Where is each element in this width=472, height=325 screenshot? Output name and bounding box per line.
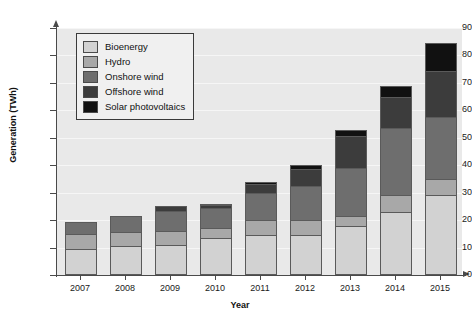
y-tick-mark (50, 28, 56, 29)
x-tick-label: 2013 (327, 283, 373, 293)
bar-stack[interactable] (245, 182, 277, 275)
x-tick-label: 2012 (282, 283, 328, 293)
bar-segment[interactable] (66, 234, 96, 249)
bar-stack[interactable] (110, 216, 142, 275)
bar-stack[interactable] (65, 222, 97, 275)
bar-segment[interactable] (426, 43, 456, 70)
y-axis-arrow-icon (53, 20, 59, 27)
x-tick-label: 2008 (102, 283, 148, 293)
legend-item[interactable]: Offshore wind (83, 84, 185, 99)
y-tick-mark (50, 275, 56, 276)
y-tick-mark (50, 165, 56, 166)
x-tick-label: 2014 (372, 283, 418, 293)
legend-label: Solar photovoltaics (105, 101, 185, 112)
legend-swatch-icon (83, 86, 98, 98)
legend-item[interactable]: Hydro (83, 54, 185, 69)
y-tick-mark (50, 83, 56, 84)
bar-segment[interactable] (66, 222, 96, 234)
bar-segment[interactable] (111, 216, 141, 232)
bar-segment[interactable] (201, 228, 231, 238)
x-tick-label: 2010 (192, 283, 238, 293)
y-axis-title: Generation (TWh) (8, 65, 18, 185)
x-axis-line (56, 275, 466, 276)
bar-segment[interactable] (426, 179, 456, 195)
bar-segment[interactable] (66, 249, 96, 275)
x-tick-mark (395, 275, 396, 280)
x-tick-mark (215, 275, 216, 280)
bar-segment[interactable] (246, 193, 276, 220)
bar-segment[interactable] (201, 208, 231, 229)
bar-segment[interactable] (336, 216, 366, 226)
x-tick-mark (350, 275, 351, 280)
bar-stack[interactable] (380, 86, 412, 275)
x-axis-title: Year (180, 300, 300, 310)
bar-segment[interactable] (381, 195, 411, 211)
legend-swatch-icon (83, 41, 98, 53)
bar-segment[interactable] (246, 235, 276, 275)
x-tick-mark (170, 275, 171, 280)
x-tick-mark (305, 275, 306, 280)
legend-item[interactable]: Bioenergy (83, 39, 185, 54)
y-tick-mark (50, 220, 56, 221)
bar-segment[interactable] (291, 169, 321, 185)
x-tick-mark (260, 275, 261, 280)
x-tick-mark (125, 275, 126, 280)
bar-segment[interactable] (156, 211, 186, 232)
bar-stack[interactable] (200, 204, 232, 275)
stacked-bar-chart: 0102030405060708090 20072008200920102011… (0, 0, 472, 325)
chart-legend: BioenergyHydroOnshore windOffshore windS… (76, 33, 194, 120)
bar-segment[interactable] (381, 86, 411, 97)
x-tick-mark (80, 275, 81, 280)
legend-label: Hydro (105, 56, 130, 67)
y-tick-mark (50, 55, 56, 56)
y-tick-mark (50, 193, 56, 194)
bar-segment[interactable] (156, 231, 186, 245)
legend-label: Onshore wind (105, 71, 164, 82)
bar-segment[interactable] (291, 235, 321, 275)
x-tick-label: 2015 (417, 283, 463, 293)
bar-segment[interactable] (111, 246, 141, 275)
legend-label: Offshore wind (105, 86, 163, 97)
bar-stack[interactable] (155, 206, 187, 275)
y-tick-mark (50, 138, 56, 139)
bar-stack[interactable] (290, 165, 322, 275)
legend-item[interactable]: Onshore wind (83, 69, 185, 84)
x-tick-label: 2011 (237, 283, 283, 293)
bar-segment[interactable] (246, 220, 276, 235)
x-tick-label: 2009 (147, 283, 193, 293)
bar-segment[interactable] (426, 117, 456, 179)
y-tick-mark (50, 248, 56, 249)
bar-segment[interactable] (111, 232, 141, 246)
bar-segment[interactable] (291, 186, 321, 220)
bar-segment[interactable] (381, 97, 411, 129)
bar-segment[interactable] (156, 245, 186, 275)
bar-segment[interactable] (426, 71, 456, 118)
bar-segment[interactable] (201, 238, 231, 275)
legend-swatch-icon (83, 71, 98, 83)
bar-segment[interactable] (426, 195, 456, 275)
bar-stack[interactable] (335, 130, 367, 275)
bar-segment[interactable] (336, 226, 366, 275)
bar-segment[interactable] (381, 128, 411, 195)
bar-segment[interactable] (336, 136, 366, 168)
legend-swatch-icon (83, 101, 98, 113)
legend-item[interactable]: Solar photovoltaics (83, 99, 185, 114)
legend-label: Bioenergy (105, 41, 148, 52)
bar-segment[interactable] (246, 184, 276, 192)
x-tick-label: 2007 (57, 283, 103, 293)
bar-stack[interactable] (425, 43, 457, 275)
bar-segment[interactable] (381, 212, 411, 275)
x-tick-mark (440, 275, 441, 280)
y-tick-mark (50, 110, 56, 111)
bar-segment[interactable] (336, 130, 366, 137)
bar-segment[interactable] (336, 168, 366, 216)
bar-segment[interactable] (291, 220, 321, 235)
legend-swatch-icon (83, 56, 98, 68)
